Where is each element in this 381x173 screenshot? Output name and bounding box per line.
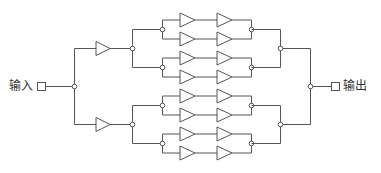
junction-node [72, 84, 77, 89]
amplifier-group [160, 13, 254, 46]
amplifier-group [160, 127, 254, 160]
junction-node [278, 122, 283, 127]
amplifier-icon [96, 42, 110, 56]
amplifier-group [160, 51, 254, 84]
output-terminal [332, 83, 340, 91]
amplifier-network-diagram [0, 0, 381, 173]
input-terminal [38, 83, 46, 91]
junction-node [278, 46, 283, 51]
junction-node [308, 84, 313, 89]
amplifier-icon [96, 118, 110, 132]
junction-node [130, 122, 135, 127]
amplifier-group [160, 89, 254, 122]
junction-node [130, 46, 135, 51]
